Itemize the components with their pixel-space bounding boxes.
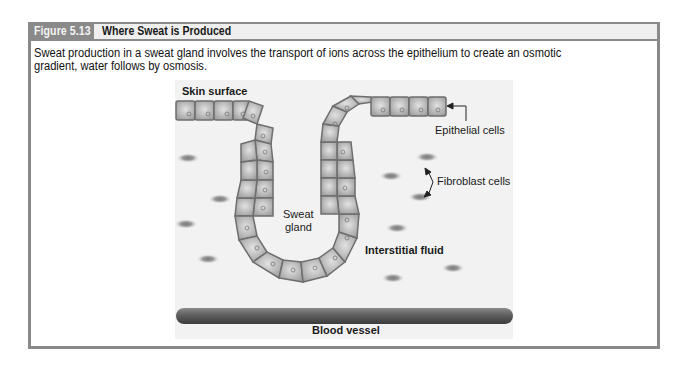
label-epithelial-cells: Epithelial cells	[435, 124, 505, 136]
figure-title: Where Sweat is Produced	[102, 24, 231, 38]
sweat-gland-diagram	[175, 80, 513, 339]
label-blood-vessel: Blood vessel	[312, 324, 380, 336]
figure-title-box: Where Sweat is Produced	[94, 24, 657, 39]
sweat-gland-illustration: Skin surface Epithelial cells Fibroblast…	[175, 80, 513, 339]
label-sweat-gland-line2: gland	[285, 221, 312, 233]
label-interstitial-fluid: Interstitial fluid	[365, 244, 444, 256]
label-fibroblast-cells: Fibroblast cells	[437, 175, 510, 187]
figure-header: Figure 5.13 Where Sweat is Produced	[28, 22, 660, 41]
label-skin-surface: Skin surface	[182, 85, 247, 97]
figure-number: Figure 5.13	[34, 24, 91, 38]
blood-vessel	[176, 308, 513, 324]
label-sweat-gland-line1: Sweat	[283, 208, 314, 220]
figure-caption: Sweat production in a sweat gland involv…	[34, 47, 592, 73]
